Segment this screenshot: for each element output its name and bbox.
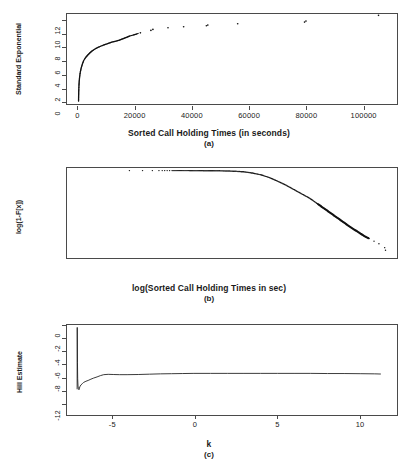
y-tick-mark — [62, 20, 66, 21]
data-point — [385, 250, 386, 251]
data-point — [105, 44, 106, 45]
data-point — [85, 56, 86, 57]
data-point — [110, 42, 111, 43]
data-point — [79, 76, 80, 77]
panel-b-data-canvas — [67, 168, 397, 258]
data-point — [129, 170, 130, 171]
x-tick-mark — [364, 106, 365, 110]
data-point — [124, 38, 125, 39]
data-point — [114, 41, 115, 42]
y-tick-mark — [62, 102, 66, 103]
series-dense-segment — [79, 33, 139, 101]
data-point — [120, 39, 121, 40]
x-tick-label: 40000 — [162, 112, 222, 120]
data-point — [78, 95, 79, 96]
data-point — [79, 75, 80, 76]
panel-a-caption: (a) — [0, 139, 418, 148]
x-tick-label: 100000 — [334, 112, 394, 120]
data-point — [237, 23, 239, 25]
data-point — [80, 73, 81, 74]
data-point — [166, 170, 167, 171]
data-point — [86, 55, 87, 56]
data-point — [304, 21, 306, 23]
panel-c: Hill Estimate 012345 0100020003000400050… — [0, 310, 418, 471]
x-tick-label: 60000 — [219, 112, 279, 120]
data-point — [150, 30, 152, 32]
data-point — [373, 240, 374, 241]
data-point — [89, 52, 90, 53]
data-point — [158, 170, 159, 171]
data-point — [78, 87, 79, 88]
y-tick-label: 12 — [54, 20, 61, 42]
data-point — [82, 62, 83, 63]
data-point — [78, 99, 79, 100]
x-tick-mark — [192, 106, 193, 110]
y-tick-mark — [62, 47, 66, 48]
x-tick-label: 80000 — [276, 112, 336, 120]
x-tick-label: 20000 — [105, 112, 165, 120]
x-tick-mark — [135, 106, 136, 110]
data-point — [84, 58, 85, 59]
data-point — [384, 247, 385, 248]
data-point — [207, 24, 209, 26]
data-point — [112, 41, 113, 42]
data-point — [90, 51, 91, 52]
data-point — [140, 32, 142, 34]
panel-c-plot-frame — [66, 324, 398, 416]
x-tick-mark — [249, 106, 250, 110]
data-point — [97, 47, 98, 48]
data-point — [78, 94, 79, 95]
data-point — [115, 41, 116, 42]
data-point — [169, 170, 170, 171]
data-point — [93, 50, 94, 51]
data-point — [78, 91, 79, 92]
panel-a-data-canvas — [67, 14, 397, 104]
data-point — [81, 66, 82, 67]
data-point — [131, 35, 132, 36]
y-tick-mark — [62, 34, 66, 35]
panel-c-x-axis-title: k — [0, 439, 418, 449]
data-point — [85, 57, 86, 58]
data-point — [79, 80, 80, 81]
y-tick-mark — [62, 75, 66, 76]
data-point — [136, 34, 137, 35]
panel-a-x-axis-title: Sorted Call Holding Times (in seconds) — [0, 128, 418, 138]
data-point — [78, 90, 79, 91]
panel-c-y-axis-title: Hill Estimate — [16, 327, 24, 417]
data-point — [88, 53, 89, 54]
data-point — [83, 60, 84, 61]
data-point — [78, 89, 79, 90]
panel-b-plot-frame — [66, 167, 398, 259]
series-line — [77, 327, 381, 389]
data-point — [82, 63, 83, 64]
panel-c-data-canvas — [67, 325, 397, 415]
data-point — [103, 44, 104, 45]
data-point — [142, 170, 143, 171]
data-point — [305, 20, 307, 22]
data-point — [164, 170, 165, 171]
panel-a: Standard Exponential 024681012 020000400… — [0, 0, 418, 155]
data-point — [378, 15, 380, 17]
data-point — [368, 238, 369, 239]
data-point — [81, 67, 82, 68]
data-point — [78, 93, 79, 94]
data-point — [129, 36, 130, 37]
data-point — [123, 38, 124, 39]
data-point — [107, 43, 108, 44]
data-point — [94, 49, 95, 50]
data-point — [133, 34, 134, 35]
data-point — [100, 46, 101, 47]
panel-b-y-axis-title: log(1-F[x]) — [15, 172, 23, 262]
panel-b-x-axis-title: log(Sorted Call Holding Times in sec) — [0, 283, 418, 293]
y-tick-mark — [62, 89, 66, 90]
data-point — [79, 83, 80, 84]
x-tick-mark — [77, 106, 78, 110]
data-point — [81, 64, 82, 65]
data-point — [378, 243, 379, 244]
data-point — [78, 97, 79, 98]
data-point — [78, 84, 79, 85]
data-point — [95, 48, 96, 49]
data-point — [87, 54, 88, 55]
data-point — [78, 85, 79, 86]
data-point — [111, 42, 112, 43]
